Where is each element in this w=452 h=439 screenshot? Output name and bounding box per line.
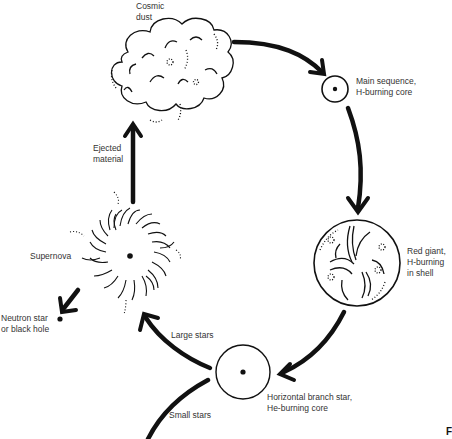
main-sequence-star [322, 76, 348, 102]
label-small-stars: Small stars [169, 410, 211, 421]
label-supernova: Supernova [30, 251, 71, 262]
arrow-dust-to-main [234, 42, 322, 72]
label-cosmic-dust: Cosmic dust [136, 1, 164, 23]
label-large-stars: Large stars [171, 330, 214, 341]
label-ejected-material: Ejected material [93, 143, 123, 165]
red-giant-star [314, 220, 400, 306]
label-neutron-star: Neutron star or black hole [1, 313, 49, 335]
cosmic-dust-cloud [112, 18, 234, 122]
label-red-giant: Red giant, H-burning in shell [407, 246, 446, 279]
arrow-main-to-redgiant [348, 108, 361, 208]
corner-figure-letter: F [446, 426, 452, 437]
neutron-star-dot [57, 316, 62, 321]
label-main-sequence: Main sequence, H-burning core [356, 76, 416, 98]
supernova-burst [70, 192, 181, 314]
label-horizontal-branch: Horizontal branch star, He-burning core [267, 392, 352, 414]
arrow-hb-to-supernova [146, 318, 210, 368]
arrow-redgiant-to-hb [284, 312, 344, 372]
horizontal-branch-star [216, 345, 270, 399]
arrow-supernova-to-neutron [64, 290, 78, 308]
